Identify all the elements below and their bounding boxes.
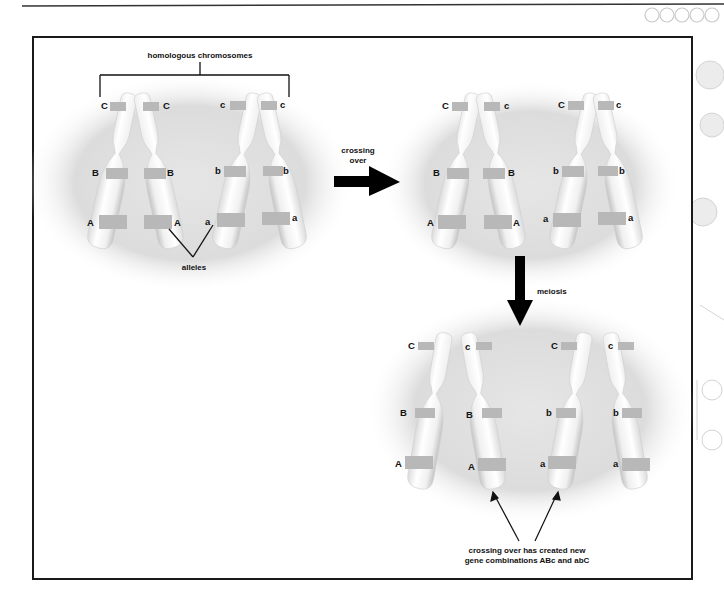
allele-label: A	[513, 217, 520, 228]
allele-label: a	[613, 458, 619, 469]
allele-label: C	[408, 340, 415, 351]
allele-label: b	[546, 407, 552, 418]
allele-label: c	[504, 100, 509, 111]
crossing-over-diagram: homologous chromosomes C C B B A A c c b…	[0, 0, 724, 608]
alleles-label: alleles	[182, 263, 207, 272]
ellipse-before	[25, 73, 355, 293]
allele-label: B	[167, 167, 174, 178]
allele-label: C	[163, 100, 170, 111]
crossing-over-label: crossing	[341, 146, 374, 155]
allele-label: A	[174, 217, 181, 228]
allele-label: C	[558, 99, 565, 110]
allele-label: B	[92, 167, 99, 178]
allele-label: A	[468, 461, 475, 472]
allele-label: b	[283, 165, 289, 176]
allele-label: a	[540, 458, 546, 469]
ellipse-after-meiosis	[365, 295, 695, 525]
allele-label: a	[205, 216, 211, 227]
decorative-circles-icon	[645, 8, 719, 22]
allele-label: B	[508, 167, 515, 178]
allele-label: b	[613, 407, 619, 418]
allele-label: a	[628, 212, 634, 223]
allele-label: b	[215, 165, 221, 176]
allele-label: A	[427, 217, 434, 228]
allele-label: C	[551, 340, 558, 351]
allele-label: c	[608, 340, 613, 351]
homologous-label: homologous chromosomes	[148, 51, 253, 60]
allele-label: B	[433, 167, 440, 178]
crossing-over-label: over	[350, 156, 367, 165]
caption-line-2: gene combinations ABc and abC	[465, 556, 590, 565]
allele-label: C	[442, 100, 449, 111]
allele-label: A	[87, 217, 94, 228]
allele-label: c	[616, 99, 621, 110]
caption-line-1: crossing over has created new	[469, 546, 587, 555]
allele-label: C	[101, 100, 108, 111]
allele-label: A	[395, 458, 402, 469]
ellipse-after-crossing	[380, 80, 680, 290]
meiosis-label: meiosis	[537, 287, 567, 296]
decorative-molecule-icon	[689, 61, 724, 450]
allele-label: b	[619, 165, 625, 176]
allele-label: B	[400, 407, 407, 418]
allele-label: a	[292, 212, 298, 223]
allele-label: a	[543, 213, 549, 224]
allele-label: b	[553, 165, 559, 176]
allele-label: B	[466, 409, 473, 420]
top-rule	[22, 4, 724, 6]
allele-label: c	[220, 99, 225, 110]
allele-label: c	[465, 341, 470, 352]
allele-label: c	[280, 99, 285, 110]
